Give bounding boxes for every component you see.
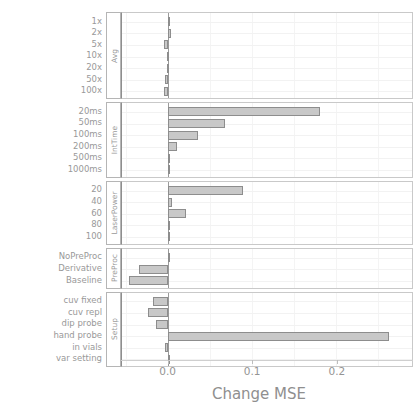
- y-tick-label: 50x: [86, 75, 102, 84]
- y-tick-label: cuv fixed: [63, 296, 102, 305]
- x-tick-mark: [252, 360, 253, 364]
- y-tick-label: 2x: [92, 28, 102, 37]
- bar: [168, 198, 171, 207]
- gridline-horizontal: [122, 158, 412, 159]
- bar: [148, 308, 168, 317]
- gridline-horizontal: [122, 124, 412, 125]
- x-axis-line: [121, 360, 413, 361]
- gridline-vertical-minor: [252, 293, 253, 367]
- y-tick-labels-setup: cuv fixedcuv repldip probehand probein v…: [41, 292, 106, 368]
- y-tick-label: 100x: [81, 86, 102, 95]
- bar: [167, 64, 169, 73]
- gridline-horizontal: [122, 57, 412, 58]
- y-tick-labels-laserpower: 20406080100: [41, 181, 106, 245]
- gridline-horizontal: [122, 147, 412, 148]
- gridline-horizontal: [122, 237, 412, 238]
- gridline-horizontal: [122, 214, 412, 215]
- plot-area-laserpower: [121, 181, 413, 245]
- y-tick-label: 500ms: [73, 153, 102, 162]
- gridline-vertical-minor: [126, 103, 127, 177]
- x-tick-mark: [168, 360, 169, 364]
- bar: [168, 142, 176, 151]
- y-tick-label: 20x: [86, 63, 102, 72]
- bar: [156, 320, 169, 329]
- bar: [168, 186, 243, 195]
- bar: [168, 221, 170, 230]
- bar: [164, 87, 168, 96]
- x-tick-label: 0.1: [244, 365, 261, 377]
- gridline-horizontal: [122, 22, 412, 23]
- group-strip-setup: Setup: [106, 292, 121, 368]
- panel-stack: 1x2x5x10x20x50x100xAvg20ms50ms100ms200ms…: [41, 12, 413, 360]
- y-tick-label: 60: [91, 209, 102, 218]
- gridline-vertical-minor: [336, 103, 337, 177]
- x-axis-title: Change MSE: [108, 385, 410, 403]
- bar: [168, 253, 170, 262]
- bar: [129, 276, 169, 285]
- gridline-horizontal: [122, 191, 412, 192]
- y-tick-label: var setting: [56, 354, 102, 363]
- x-tick-label: 0.2: [328, 365, 345, 377]
- bar: [165, 343, 168, 352]
- gridline-vertical-minor: [210, 13, 211, 98]
- bar: [168, 165, 170, 174]
- gridline-vertical-minor: [126, 293, 127, 367]
- bar: [168, 17, 170, 26]
- bar: [168, 332, 389, 341]
- panel-setup: cuv fixedcuv repldip probehand probein v…: [41, 292, 413, 368]
- gridline-horizontal: [122, 202, 412, 203]
- y-tick-label: 40: [91, 197, 102, 206]
- gridline-horizontal: [122, 68, 412, 69]
- group-strip-inttime: IntTime: [106, 102, 121, 178]
- panel-laserpower: 20406080100LaserPower: [41, 181, 413, 245]
- group-strip-label: LaserPower: [109, 191, 118, 234]
- gridline-horizontal: [122, 225, 412, 226]
- y-tick-label: in vials: [72, 343, 102, 352]
- bar: [165, 75, 168, 84]
- y-tick-label: Derivative: [58, 264, 102, 273]
- group-strip-avg: Avg: [106, 12, 121, 99]
- group-strip-label: IntTime: [109, 126, 118, 154]
- chart-figure: Setting 1x2x5x10x20x50x100xAvg20ms50ms10…: [0, 0, 415, 419]
- y-tick-label: 100ms: [73, 130, 102, 139]
- bar: [168, 107, 319, 116]
- y-tick-label: cuv repl: [68, 308, 102, 317]
- y-tick-labels-inttime: 20ms50ms100ms200ms500ms1000ms: [41, 102, 106, 178]
- bar: [168, 154, 170, 163]
- bar: [153, 297, 168, 306]
- group-strip-laserpower: LaserPower: [106, 181, 121, 245]
- bar: [168, 209, 186, 218]
- y-tick-label: 5x: [92, 40, 102, 49]
- y-tick-label: 80: [91, 220, 102, 229]
- bar: [139, 265, 168, 274]
- y-tick-labels-preproc: NoPreProcDerivativeBaseline: [41, 248, 106, 289]
- gridline-vertical-minor: [252, 13, 253, 98]
- gridline-vertical-minor: [210, 293, 211, 367]
- plot-area-preproc: [121, 248, 413, 289]
- plot-area-setup: [121, 292, 413, 368]
- panel-preproc: NoPreProcDerivativeBaselinePreProc: [41, 248, 413, 289]
- bar: [168, 131, 198, 140]
- gridline-vertical-minor: [126, 13, 127, 98]
- y-tick-label: 200ms: [73, 142, 102, 151]
- plot-area-avg: [121, 12, 413, 99]
- gridline-horizontal: [122, 170, 412, 171]
- plot-area-inttime: [121, 102, 413, 178]
- y-tick-labels-avg: 1x2x5x10x20x50x100x: [41, 12, 106, 99]
- panel-avg: 1x2x5x10x20x50x100xAvg: [41, 12, 413, 99]
- group-strip-label: Setup: [109, 318, 118, 340]
- group-strip-label: PreProc: [109, 254, 118, 282]
- y-tick-label: hand probe: [53, 331, 102, 340]
- y-tick-label: 20: [91, 185, 102, 194]
- y-tick-label: 50ms: [78, 118, 102, 127]
- gridline-vertical-minor: [378, 293, 379, 367]
- y-tick-label: 10x: [86, 51, 102, 60]
- gridline-horizontal: [122, 33, 412, 34]
- gridline-horizontal: [122, 135, 412, 136]
- gridline-horizontal: [122, 258, 412, 259]
- y-tick-label: 100: [86, 232, 102, 241]
- group-strip-label: Avg: [109, 49, 118, 63]
- y-tick-label: 20ms: [78, 107, 102, 116]
- bar: [167, 52, 169, 61]
- gridline-vertical-minor: [294, 13, 295, 98]
